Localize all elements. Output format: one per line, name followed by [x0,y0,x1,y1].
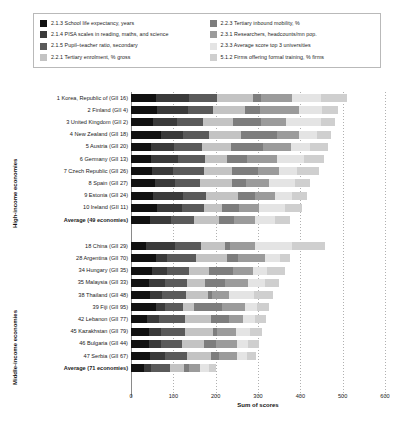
chart-legend: 2.1.3 School life expectancy, years2.2.3… [33,13,381,68]
bar-segment-s214 [151,155,177,163]
legend-item-s214: 2.1.4 PISA scales in reading, maths, and… [40,29,206,40]
row-label: 47 Serbia (GII 67) [84,354,128,360]
row-label: 39 Fiji (GII 95) [93,305,128,311]
bar-row [131,303,269,311]
bar-segment-s233 [229,291,254,299]
bar-segment-s213 [131,179,155,187]
bar-segment-s512 [304,155,323,163]
bar-segment-s221 [217,94,253,102]
row-label: 10 Ireland (GII 11) [83,205,128,211]
bar-row [131,143,328,151]
legend-swatch-s231 [210,31,217,38]
bar-segment-s233 [255,242,292,250]
bar-segment-s215 [183,192,207,200]
bar-segment-s512 [265,279,279,287]
bar-segment-s231 [261,94,291,102]
bar-segment-s223 [219,216,234,224]
bar-segment-s512 [295,179,310,187]
bar-segment-s221 [187,352,211,360]
row-label: 18 China (GII 29) [85,244,128,250]
row-label: 34 Hungary (GII 35) [79,268,128,274]
bar-segment-s215 [165,303,184,311]
bar-segment-s215 [174,143,202,151]
bar-segment-s231 [246,179,269,187]
legend-swatch-s213 [40,20,47,27]
bar-segment-s221 [182,340,204,348]
bar-row [131,279,279,287]
bar-row [131,254,290,262]
bar-segment-s231 [261,118,286,126]
bar-segment-s214 [156,94,189,102]
x-tick-500: 500 [328,393,358,399]
bar-row [131,352,256,360]
bar-segment-s213 [131,118,153,126]
legend-label-s215: 2.1.5 Pupil–teacher ratio, secondary [51,43,138,48]
bar-segment-s233 [255,216,274,224]
bar-segment-s231 [212,291,229,299]
bar-segment-s512 [275,216,290,224]
bar-segment-s512 [254,291,273,299]
bar-segment-s233 [286,118,321,126]
bar-segment-s215 [162,291,186,299]
bar-segment-s221 [194,216,219,224]
bar-segment-s221 [189,267,208,275]
row-label: Average (71 economies) [64,366,128,372]
bar-segment-s215 [188,106,213,114]
bar-segment-s221 [201,242,225,250]
bar-segment-s512 [317,131,331,139]
bar-segment-s213 [131,106,157,114]
bar-segment-s233 [237,352,247,360]
bar-segment-s214 [150,291,163,299]
bar-segment-s231 [225,279,248,287]
legend-item-s223: 2.2.3 Tertiary inbound mobility, % [210,18,376,29]
legend-label-s233: 2.3.3 Average score top 3 universities [221,43,311,48]
bar-segment-s233 [299,106,323,114]
bar-segment-s213 [131,340,149,348]
bar-segment-s215 [167,267,190,275]
row-label: 1 Korea, Republic of (GII 16) [57,96,128,102]
bar-segment-s231 [217,328,236,336]
bar-segment-s215 [161,340,182,348]
bar-row [131,328,262,336]
plot-area: 1 Korea, Republic of (GII 16)2 Finland (… [0,80,415,410]
bar-segment-s223 [232,179,246,187]
bar-segment-s231 [230,242,255,250]
bar-segment-s223 [209,267,233,275]
legend-item-s512: 5.1.2 Firms offering formal training, % … [210,52,376,63]
bar-segment-s231 [238,254,264,262]
bar-segment-s221 [187,279,205,287]
bar-segment-s215 [171,216,195,224]
bar-row [131,131,331,139]
bar-segment-s215 [167,254,197,262]
bar-segment-s215 [151,364,170,372]
bar-segment-s221 [202,143,231,151]
bar-segment-s233 [245,303,257,311]
bar-segment-s221 [204,167,232,175]
bar-segment-s233 [237,340,248,348]
row-label: 38 Thailand (GII 48) [78,293,128,299]
bar-segment-s213 [131,143,151,151]
bar-segment-s512 [250,328,262,336]
bar-segment-s213 [131,315,147,323]
bar-segment-s213 [131,167,152,175]
bar-segment-s231 [258,167,279,175]
bar-segment-s233 [200,364,209,372]
group-label-middle-income: Middle-income economies [12,310,18,385]
bar-segment-s221 [209,131,241,139]
bar-segment-s223 [205,279,225,287]
legend-item-s231: 2.3.1 Researchers, headcounts/mn pop. [210,29,376,40]
group-label-high-income: High-income economies [12,159,18,228]
bar-segment-s213 [131,155,151,163]
bar-segment-s231 [260,106,299,114]
bar-segment-s213 [131,279,149,287]
bar-row [131,291,273,299]
bar-segment-s231 [222,303,245,311]
bar-segment-s221 [196,254,227,262]
row-label: 46 Bulgaria (GII 44) [79,341,128,347]
bar-segment-s233 [265,254,280,262]
legend-label-s512: 5.1.2 Firms offering formal training, % … [221,55,325,60]
bar-segment-s213 [131,303,156,311]
bar-segment-s213 [131,204,157,212]
bar-segment-s221 [205,155,227,163]
bar-segment-s213 [131,328,149,336]
